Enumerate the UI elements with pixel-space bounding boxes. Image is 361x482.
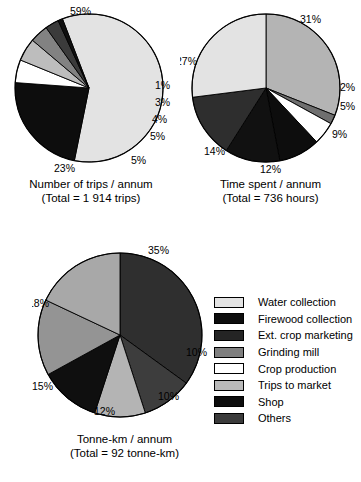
legend-item: Grinding mill <box>214 344 361 361</box>
pie-slice-label: 27% <box>180 55 197 67</box>
legend-label: Shop <box>258 396 284 408</box>
chart-caption-tonnekm: Tonne-km / annum (Total = 92 tonne-km) <box>32 433 217 460</box>
chart-legend: Water collectionFirewood collectionExt. … <box>214 294 361 427</box>
pie-slice-label: 5% <box>150 130 165 142</box>
legend-item: Shop <box>214 394 361 411</box>
legend-swatch <box>214 313 244 324</box>
pie-chart-figure: 59%23%5%5%4%3%1% Number of trips / annum… <box>0 0 361 482</box>
legend-label: Others <box>258 412 291 424</box>
chart-caption-trips: Number of trips / annum (Total = 1 914 t… <box>0 178 182 205</box>
legend-item: Ext. crop marketing <box>214 327 361 344</box>
pie-slice-label: 15% <box>32 380 53 392</box>
pie-slice-label: 18% <box>32 297 49 309</box>
caption-title-tonnekm: Tonne-km / annum <box>77 433 172 445</box>
legend-item: Water collection <box>214 294 361 311</box>
pie-slice-label: 10% <box>158 390 179 402</box>
pie-slice-label: 4% <box>152 113 167 125</box>
pie-svg-time: 31%2%5%9%12%14%27% <box>180 4 361 174</box>
legend-item: Others <box>214 410 361 427</box>
caption-subtitle-trips: (Total = 1 914 trips) <box>0 192 182 206</box>
legend-label: Crop production <box>258 363 336 375</box>
legend-swatch <box>214 347 244 358</box>
legend-swatch <box>214 330 244 341</box>
legend-item: Trips to market <box>214 377 361 394</box>
legend-swatch <box>214 380 244 391</box>
legend-label: Trips to market <box>258 379 331 391</box>
pie-slice-label: 1% <box>155 79 170 91</box>
chart-time-spent: 31%2%5%9%12%14%27% Time spent / annum (T… <box>180 4 361 220</box>
legend-swatch <box>214 413 244 424</box>
pie-slice <box>192 14 266 97</box>
legend-item: Crop production <box>214 360 361 377</box>
caption-title-time: Time spent / annum <box>220 178 321 190</box>
pie-slice-label: 23% <box>54 162 75 174</box>
pie-slice-label: 14% <box>204 145 225 157</box>
pie-slice-label: 10% <box>186 346 207 358</box>
pie-slice-label: 12% <box>94 405 115 417</box>
pie-wrap-time: 31%2%5%9%12%14%27% <box>180 4 361 174</box>
chart-caption-time: Time spent / annum (Total = 736 hours) <box>180 178 361 205</box>
legend-label: Grinding mill <box>258 346 319 358</box>
pie-svg-tonnekm: 35%10%10%12%15%18% <box>32 243 217 429</box>
legend-label: Ext. crop marketing <box>258 329 353 341</box>
pie-svg-trips: 59%23%5%5%4%3%1% <box>0 4 182 174</box>
pie-slice-label: 31% <box>300 13 321 25</box>
pie-wrap-trips: 59%23%5%5%4%3%1% <box>0 4 182 174</box>
caption-subtitle-time: (Total = 736 hours) <box>180 192 361 206</box>
caption-subtitle-tonnekm: (Total = 92 tonne-km) <box>32 447 217 461</box>
caption-title-trips: Number of trips / annum <box>29 178 152 190</box>
legend-item: Firewood collection <box>214 311 361 328</box>
pie-slice-label: 12% <box>260 163 281 174</box>
legend-swatch <box>214 297 244 308</box>
legend-label: Water collection <box>258 296 336 308</box>
legend-label: Firewood collection <box>258 313 352 325</box>
legend-swatch <box>214 363 244 374</box>
pie-slice-label: 5% <box>340 100 355 112</box>
pie-slice-label: 9% <box>332 128 347 140</box>
pie-slice-label: 5% <box>131 154 146 166</box>
pie-slice-label: 3% <box>155 96 170 108</box>
chart-number-of-trips: 59%23%5%5%4%3%1% Number of trips / annum… <box>0 4 182 220</box>
chart-tonne-km: 35%10%10%12%15%18% Tonne-km / annum (Tot… <box>32 243 217 475</box>
pie-slice-label: 59% <box>70 5 91 17</box>
pie-slice-label: 35% <box>148 244 169 256</box>
pie-slice-label: 2% <box>340 81 355 93</box>
legend-swatch <box>214 396 244 407</box>
pie-wrap-tonnekm: 35%10%10%12%15%18% <box>32 243 217 429</box>
